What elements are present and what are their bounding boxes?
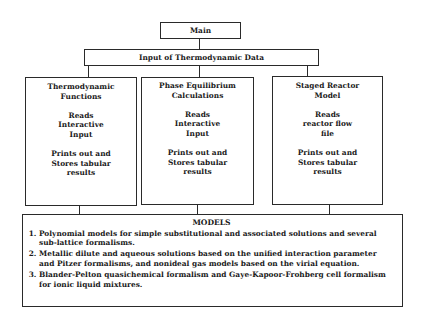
module-input-text: Reads bbox=[26, 111, 136, 121]
module-input-text: Interactive bbox=[26, 120, 136, 130]
module-output-text: results bbox=[273, 167, 382, 177]
thermodynamic-functions-box: Thermodynamic Functions Reads Interactiv… bbox=[25, 77, 137, 206]
module-input-text: Input bbox=[142, 129, 253, 139]
connector-input-thermo bbox=[88, 65, 89, 77]
input-data-label: Input of Thermodynamic Data bbox=[85, 50, 318, 65]
phase-equilibrium-box: Phase Equilibrium Calculations Reads Int… bbox=[141, 77, 254, 205]
staged-reactor-box: Staged Reactor Model Reads reactor flow … bbox=[272, 76, 383, 205]
module-output-text: Stores tabular bbox=[273, 158, 382, 168]
connector-phase-models bbox=[197, 204, 198, 214]
main-label: Main bbox=[161, 23, 240, 38]
models-list: Polynomial models for simple substitutio… bbox=[29, 229, 394, 290]
module-output-text: results bbox=[142, 167, 253, 177]
module-title: Model bbox=[273, 91, 382, 101]
models-title: MODELS bbox=[29, 218, 394, 228]
module-input-text: Reads bbox=[142, 110, 253, 120]
module-output-text: results bbox=[26, 168, 136, 178]
module-output-text: Prints out and bbox=[273, 148, 382, 158]
model-item: Blander-Pelton quasichemical formalism a… bbox=[39, 270, 394, 289]
module-output-text: Prints out and bbox=[142, 148, 253, 158]
models-box: MODELS Polynomial models for simple subs… bbox=[22, 214, 403, 307]
model-item: Metallic dilute and aqueous solutions ba… bbox=[39, 249, 394, 268]
main-box: Main bbox=[160, 22, 241, 39]
module-title: Phase Equilibrium bbox=[142, 81, 253, 91]
module-input-text: reactor flow bbox=[273, 119, 382, 129]
connector-input-phase bbox=[199, 65, 200, 77]
connector-reactor-models bbox=[329, 204, 330, 214]
module-input-text: Reads bbox=[273, 110, 382, 120]
module-title: Functions bbox=[26, 92, 136, 102]
module-title: Thermodynamic bbox=[26, 82, 136, 92]
module-title: Calculations bbox=[142, 91, 253, 101]
module-input-text: Input bbox=[26, 130, 136, 140]
input-data-box: Input of Thermodynamic Data bbox=[84, 49, 319, 66]
connector-main-input bbox=[199, 38, 200, 49]
module-input-text: file bbox=[273, 129, 382, 139]
module-output-text: Prints out and bbox=[26, 149, 136, 159]
model-item: Polynomial models for simple substitutio… bbox=[39, 229, 394, 248]
module-output-text: Stores tabular bbox=[142, 158, 253, 168]
module-input-text: Interactive bbox=[142, 119, 253, 129]
connector-thermo-models bbox=[79, 205, 80, 214]
module-output-text: Stores tabular bbox=[26, 159, 136, 169]
connector-input-reactor bbox=[307, 65, 308, 76]
module-title: Staged Reactor bbox=[273, 81, 382, 91]
